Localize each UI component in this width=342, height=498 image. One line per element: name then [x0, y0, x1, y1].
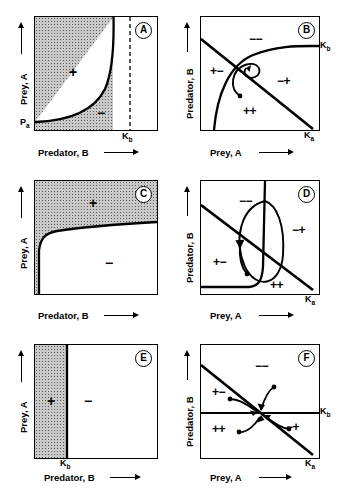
- panel-a-yaxis-arrow-head: [18, 22, 24, 28]
- panel-a-xaxis-label: Predator, B: [38, 147, 89, 158]
- panel-f-tick-k-a: Ka: [305, 458, 315, 470]
- panel-f-tick-k-b-sub: b: [327, 411, 331, 418]
- panel-a-yaxis-arrow-line: [21, 28, 22, 54]
- panel-c-xaxis-label: Predator, B: [38, 310, 89, 321]
- panel-f-letter: F: [298, 350, 315, 367]
- panel-f-xaxis-arrow-head: [286, 474, 292, 480]
- panel-e-sign-minus: −: [84, 393, 92, 409]
- panel-f-xaxis-arrow-line: [259, 477, 287, 478]
- panel-b-sign-minus-plus: −+: [277, 74, 290, 88]
- panel-f-tick-k-b: Kb: [320, 406, 330, 418]
- panel-e-sign-plus: +: [47, 393, 55, 409]
- panel-b-letter: B: [298, 22, 315, 39]
- panel-f-sign-minus-plus: −+: [286, 420, 299, 434]
- panel-a-xaxis-arrow-head: [133, 149, 139, 155]
- panel-b-yaxis-arrow-line: [187, 28, 188, 52]
- panel-f-sign-minus-minus: −−: [255, 359, 268, 373]
- panel-e-tick-k-b: Kb: [60, 458, 70, 470]
- panel-e-yaxis-arrow-head: [18, 350, 24, 356]
- panel-a-sign-plus: +: [69, 64, 77, 80]
- panel-d-yaxis-arrow-head: [184, 186, 190, 192]
- panel-e-yaxis-label: Prey, A: [18, 401, 29, 433]
- panel-b-yaxis-arrow-head: [184, 22, 190, 28]
- panel-c-yaxis-label: Prey, A: [18, 237, 29, 269]
- panel-c-xaxis-arrow-line: [104, 315, 134, 316]
- panel-d-sign-minus-minus: −−: [239, 194, 252, 208]
- panel-c-sign-minus: −: [105, 255, 113, 271]
- panel-d-tick-k-a: Ka: [305, 294, 315, 306]
- panel-c-yaxis-arrow-line: [21, 192, 22, 218]
- figure-panel-grid: + − A Pa Kb Predator, B Prey, A −− +− −+…: [0, 0, 342, 498]
- panel-a-tick-k-b-sub: b: [129, 136, 133, 143]
- panel-d-xaxis-arrow-head: [288, 312, 294, 318]
- panel-b-tick-k-b-sub: b: [327, 45, 331, 52]
- panel-b-tick-k-a: Ka: [304, 130, 314, 142]
- panel-f-yaxis-arrow-head: [184, 350, 190, 356]
- panel-a-tick-k-b: Kb: [122, 131, 132, 143]
- panel-b-sign-plus-minus: +−: [210, 64, 223, 78]
- panel-c-yaxis-arrow-head: [18, 186, 24, 192]
- panel-c: + − C Predator, B Prey, A: [0, 166, 171, 332]
- panel-f-yaxis-arrow-line: [187, 356, 188, 380]
- panel-a-yaxis-label: Prey, A: [18, 73, 29, 105]
- panel-d-letter: D: [298, 186, 315, 203]
- panel-b-tick-k-b: Kb: [320, 40, 330, 52]
- panel-d-xaxis-label: Prey, A: [210, 310, 242, 321]
- panel-b-sign-plus-plus: ++: [243, 104, 256, 118]
- panel-e-xaxis-label: Predator, B: [44, 472, 95, 483]
- panel-b-xaxis-label: Prey, A: [210, 147, 242, 158]
- panel-a-tick-p-a-sub: a: [26, 122, 30, 129]
- panel-c-xaxis-arrow-head: [133, 312, 139, 318]
- panel-c-letter: C: [135, 186, 152, 203]
- panel-d-yaxis-arrow-line: [187, 192, 188, 216]
- panel-e-yaxis-arrow-line: [21, 356, 22, 382]
- panel-e-xaxis-arrow-line: [110, 477, 136, 478]
- panel-b: −− +− −+ ++ B Kb Ka Prey, A Predator, B: [171, 0, 342, 166]
- panel-d-tick-k-a-sub: a: [312, 299, 316, 306]
- panel-a-sign-minus: −: [97, 105, 105, 121]
- panel-f-xaxis-label: Prey, A: [210, 472, 242, 483]
- panel-e-tick-k-b-sub: b: [67, 463, 71, 470]
- panel-d-xaxis-arrow-line: [259, 315, 289, 316]
- panel-b-yaxis-label: Predator, B: [184, 68, 195, 119]
- panel-b-xaxis-arrow-line: [259, 152, 289, 153]
- panel-f-yaxis-label: Predator, B: [184, 396, 195, 447]
- panel-a-xaxis-arrow-line: [104, 152, 134, 153]
- panel-e-letter: E: [135, 350, 152, 367]
- panel-a-letter: A: [135, 22, 152, 39]
- panel-c-sign-plus: +: [89, 195, 97, 211]
- panel-f: −− +− −+ ++ F Kb Ka Prey, A Predator, B: [171, 332, 342, 498]
- panel-e-xaxis-arrow-head: [135, 474, 141, 480]
- panel-d: −− +− −+ ++ D Ka Prey, A Predator, B: [171, 166, 342, 332]
- panel-a-tick-p-a: Pa: [20, 117, 30, 129]
- panel-a: + − A Pa Kb Predator, B Prey, A: [0, 0, 171, 166]
- panel-d-sign-minus-plus: −+: [292, 223, 305, 237]
- panel-e: + − E Kb Predator, B Prey, A: [0, 332, 171, 498]
- panel-d-yaxis-label: Predator, B: [184, 232, 195, 283]
- panel-d-sign-plus-plus: ++: [270, 278, 283, 292]
- panel-d-sign-plus-minus: +−: [213, 255, 226, 269]
- panel-f-sign-plus-plus: ++: [212, 422, 225, 436]
- panel-f-sign-plus-minus: +−: [212, 385, 225, 399]
- panel-b-sign-minus-minus: −−: [249, 32, 262, 46]
- panel-b-tick-k-a-sub: a: [311, 135, 315, 142]
- panel-f-tick-k-a-sub: a: [312, 463, 316, 470]
- panel-b-xaxis-arrow-head: [288, 149, 294, 155]
